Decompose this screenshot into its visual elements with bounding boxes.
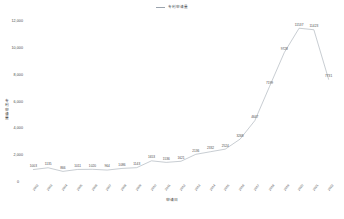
x-axis-tick-label: 2014 <box>209 184 216 192</box>
x-axis-tick-label: 2003 <box>47 184 54 192</box>
chart-legend: 专利申请量 <box>0 6 344 10</box>
x-axis-tick-label: 2021 <box>313 184 320 192</box>
x-axis-tick-label: 2002 <box>32 184 39 192</box>
legend-entry-label[interactable]: 专利申请量 <box>168 6 189 10</box>
x-axis-tick-labels: 2002200320042005200620072008200920102011… <box>26 184 336 200</box>
x-axis-tick-label: 2016 <box>239 184 246 192</box>
x-axis-tick-label: 2005 <box>76 184 83 192</box>
x-axis-tick-label: 2008 <box>121 184 128 192</box>
x-axis-title: 申请日 <box>0 199 344 203</box>
series-line-svg <box>26 22 336 183</box>
y-axis-tick-label: 6,000 <box>14 101 23 105</box>
x-axis-tick-label: 2006 <box>91 184 98 192</box>
x-axis-tick-label: 2020 <box>298 184 305 192</box>
x-axis-tick-label: 2015 <box>224 184 231 192</box>
y-axis-tick-labels: 12,00010,0008,0006,0004,0002,000 <box>0 22 23 183</box>
x-axis-tick-label: 2018 <box>268 184 275 192</box>
legend-line-swatch-icon <box>156 7 165 8</box>
x-axis-tick-label: 2009 <box>135 184 142 192</box>
y-axis-tick-label: 4,000 <box>14 127 23 131</box>
x-axis-tick-label: 2007 <box>106 184 113 192</box>
plot-area <box>26 22 336 183</box>
y-axis-tick-label: 12,000 <box>11 20 23 24</box>
y-axis-zero-label: 0 <box>17 181 19 185</box>
x-axis-tick-label: 2022 <box>327 184 334 192</box>
x-axis-tick-label: 2017 <box>254 184 261 192</box>
x-axis-tick-label: 2011 <box>165 184 172 191</box>
x-axis-tick-label: 2004 <box>62 184 69 192</box>
y-axis-tick-label: 10,000 <box>11 47 23 51</box>
series-line-path <box>33 28 328 171</box>
x-axis-tick-label: 2010 <box>150 184 157 192</box>
line-chart: 专利申请量 专利申请量 12,00010,0008,0006,0004,0002… <box>0 0 344 219</box>
x-axis-tick-label: 2013 <box>195 184 202 192</box>
x-axis-tick-label: 2019 <box>283 184 290 192</box>
x-axis-tick-label: 2012 <box>180 184 187 192</box>
y-axis-tick-label: 2,000 <box>14 154 23 158</box>
y-axis-tick-label: 8,000 <box>14 74 23 78</box>
